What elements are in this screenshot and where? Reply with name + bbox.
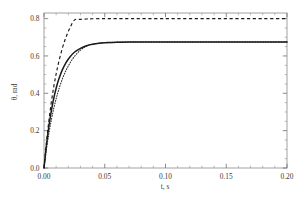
plot-canvas: 0.000.050.100.150.20 0.00.20.40.60.8 t, … xyxy=(0,0,302,200)
y-tick-label: 0.8 xyxy=(30,14,40,23)
x-tick-label: 0.10 xyxy=(159,172,172,181)
x-tick-label: 0.05 xyxy=(98,172,111,181)
y-tick-label: 0.0 xyxy=(30,164,40,173)
figure-background xyxy=(0,0,302,200)
y-tick-label: 0.4 xyxy=(30,89,40,98)
y-tick-label: 0.2 xyxy=(30,126,40,135)
y-axis-title: θ, rad xyxy=(10,83,19,100)
x-tick-label: 0.15 xyxy=(220,172,233,181)
x-axis-title: t, s xyxy=(161,182,170,191)
x-tick-label: 0.00 xyxy=(38,172,51,181)
chart-figure: 0.000.050.100.150.20 0.00.20.40.60.8 t, … xyxy=(0,0,302,200)
x-tick-label: 0.20 xyxy=(281,172,294,181)
y-tick-label: 0.6 xyxy=(30,52,40,61)
